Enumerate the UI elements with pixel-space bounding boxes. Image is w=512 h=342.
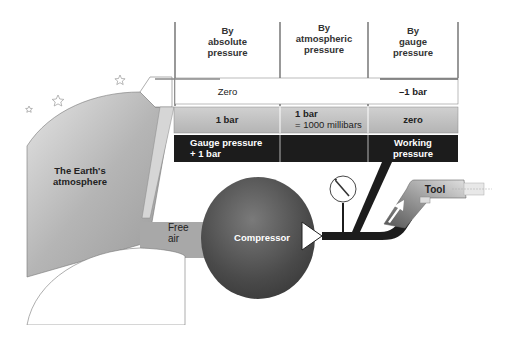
vacuum-gauge-value: –1 bar <box>368 86 458 97</box>
header-line: By <box>368 25 458 36</box>
header-line: absolute <box>175 36 280 47</box>
label-line: Free <box>168 222 208 233</box>
label-line: The Earth's <box>40 165 120 176</box>
value-line: 1 bar <box>295 108 375 119</box>
header-line: By <box>175 25 280 36</box>
value-line: 1 bar <box>174 114 280 125</box>
free-air-label: Free air <box>168 222 208 244</box>
working-gauge-value: Working pressure <box>368 137 458 159</box>
earth-atmosphere-label: The Earth's atmosphere <box>40 165 120 187</box>
value-line: pressure <box>368 148 458 159</box>
header-line: By <box>280 22 368 33</box>
value-line: + 1 bar <box>190 148 280 159</box>
working-absolute-value: Gauge pressure + 1 bar <box>190 137 280 159</box>
header-line: pressure <box>175 47 280 58</box>
label-line: atmosphere <box>40 176 120 187</box>
value-line: Gauge pressure <box>190 137 280 148</box>
pressure-gauge-icon <box>330 176 356 232</box>
tool-label: Tool <box>420 184 450 195</box>
header-line: gauge <box>368 36 458 47</box>
compressor-label: Compressor <box>222 232 302 243</box>
header-absolute-pressure: By absolute pressure <box>175 25 280 58</box>
atmos-gauge-value: zero <box>368 114 458 125</box>
atmos-absolute-value: 1 bar <box>174 114 280 125</box>
header-line: atmospheric <box>280 33 368 44</box>
header-gauge-pressure: By gauge pressure <box>368 25 458 58</box>
header-line: pressure <box>280 44 368 55</box>
vacuum-absolute-value: Zero <box>175 86 280 97</box>
header-atmospheric-pressure: By atmospheric pressure <box>280 22 368 55</box>
value-line: = 1000 millibars <box>295 119 375 130</box>
atmos-atmospheric-value: 1 bar = 1000 millibars <box>295 108 375 130</box>
value-line: Working <box>368 137 458 148</box>
label-line: air <box>168 233 208 244</box>
header-line: pressure <box>368 47 458 58</box>
value-line: zero <box>368 114 458 125</box>
